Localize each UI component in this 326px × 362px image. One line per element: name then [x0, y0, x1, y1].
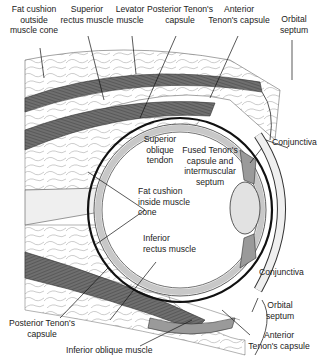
label-superior-rectus: Superior rectus muscle [58, 4, 116, 25]
label-conjunctiva-top: Conjunctiva [272, 137, 317, 148]
label-posterior-tenon-bottom: Posterior Tenon's capsule [6, 318, 78, 339]
label-orbital-septum-bottom: Orbital septum [258, 300, 302, 321]
label-anterior-tenon-top: Anterior Tenon's capsule [206, 4, 272, 25]
label-posterior-tenon-top: Posterior Tenon's capsule [145, 4, 215, 25]
label-conjunctiva-bottom: Conjunctiva [259, 267, 304, 278]
lens [230, 182, 260, 234]
label-fat-outside: Fat cushion outside muscle cone [4, 4, 64, 36]
label-inferior-rectus: Inferior rectus muscle [143, 233, 196, 254]
label-inferior-oblique: Inferior oblique muscle [66, 345, 152, 356]
label-fat-inside: Fat cushion inside muscle cone [138, 186, 190, 218]
label-levator: Levator muscle [114, 4, 146, 25]
label-fused-tenon: Fused Tenon's capsule and intermuscular … [180, 145, 240, 187]
optic-nerve [25, 188, 104, 225]
label-orbital-septum-top: Orbital septum [272, 14, 316, 35]
label-superior-oblique: Superior oblique tendon [140, 134, 180, 166]
label-anterior-tenon-bottom: Anterior Tenon's capsule [246, 330, 312, 351]
